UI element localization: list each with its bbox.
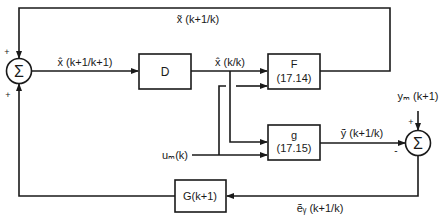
block-g-label: g xyxy=(291,129,297,141)
sum2-sign-top: + xyxy=(408,117,413,127)
block-F-ref: (17.14) xyxy=(277,72,312,84)
signal-y-meas: yₘ (k+1) xyxy=(398,90,439,102)
wire-x-filt-to-g xyxy=(230,71,267,142)
block-D-label: D xyxy=(161,65,170,79)
signal-u-meas: uₘ(k) xyxy=(162,149,188,161)
signal-x-upd: x̂ (k+1/k+1) xyxy=(57,56,112,68)
signal-x-pred: x̃ (k+1/k) xyxy=(177,13,220,25)
signal-e-y: ẽᵧ (k+1/k) xyxy=(297,202,344,215)
wire-gain-feedback xyxy=(19,84,175,196)
sigma-icon: Σ xyxy=(14,63,24,80)
signal-x-filt: x̂ (k/k) xyxy=(215,56,245,68)
wire-u-meas-to-F xyxy=(219,86,226,155)
block-g-ref: (17.15) xyxy=(277,142,312,154)
kalman-filter-block-diagram: D F (17.14) g (17.15) G(k+1) Σ + + Σ + -… xyxy=(0,0,446,220)
sum1-sign-bottom: + xyxy=(5,90,10,100)
wire-e-y xyxy=(227,156,418,196)
block-F-label: F xyxy=(291,58,298,70)
sigma-icon: Σ xyxy=(413,135,423,152)
signal-y-pred: ỹ (k+1/k) xyxy=(341,127,383,139)
block-G-label: G(k+1) xyxy=(183,190,217,202)
sum2-sign-left: - xyxy=(394,145,397,156)
sum1-sign-top: + xyxy=(4,47,9,57)
